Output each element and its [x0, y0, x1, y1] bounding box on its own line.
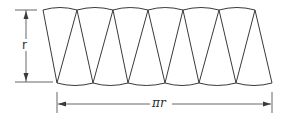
bottom-arcs	[57, 83, 272, 86]
arrow-down-icon	[24, 73, 29, 81]
sector-radii	[43, 10, 272, 83]
width-label: πr	[151, 97, 167, 109]
arrow-left-icon	[58, 102, 66, 107]
arrow-right-icon	[263, 102, 271, 107]
arrow-up-icon	[24, 11, 29, 19]
height-label: r	[21, 39, 28, 51]
top-arcs	[43, 8, 255, 11]
sector-rearrangement-diagram	[0, 0, 288, 125]
